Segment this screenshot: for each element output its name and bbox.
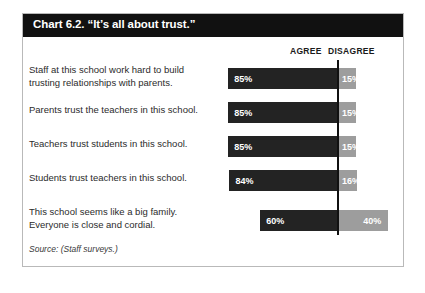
agree-disagree-divider [337, 60, 339, 235]
bar-segment-disagree: 15% [337, 136, 356, 157]
row-label: Teachers trust students in this school. [29, 138, 209, 151]
bar-value-agree: 84% [229, 176, 253, 186]
chart-title: Chart 6.2. “It’s all about trust.” [33, 18, 195, 30]
chart-title-band: Chart 6.2. “It’s all about trust.” [23, 14, 403, 37]
bar-segment-agree: 60% [260, 210, 337, 231]
chart-frame: Chart 6.2. “It’s all about trust.” AGREE… [22, 13, 404, 267]
bar-segment-disagree: 16% [337, 170, 357, 191]
bar-segment-agree: 85% [228, 102, 337, 123]
column-header-row: AGREE DISAGREE [23, 46, 403, 60]
bar-value-agree: 85% [228, 74, 252, 84]
bar-segment-agree: 85% [228, 68, 337, 89]
bar-segment-disagree: 40% [337, 210, 388, 231]
bar-value-agree: 60% [260, 216, 284, 226]
bar-value-disagree: 15% [337, 142, 360, 152]
bar-value-disagree: 16% [337, 176, 360, 186]
bar-value-disagree: 15% [337, 74, 360, 84]
column-header-disagree: DISAGREE [328, 46, 375, 56]
bar-segment-agree: 85% [228, 136, 337, 157]
plot-area: Staff at this school work hard to buildt… [23, 60, 403, 240]
column-header-agree: AGREE [290, 46, 322, 56]
row-label: Staff at this school work hard to buildt… [29, 64, 209, 89]
bar-value-agree: 85% [228, 108, 252, 118]
bar-segment-disagree: 15% [337, 68, 356, 89]
source-note: Source: (Staff surveys.) [29, 244, 118, 254]
row-label: Parents trust the teachers in this schoo… [29, 104, 209, 117]
row-label: This school seems like a big family.Ever… [29, 206, 209, 231]
stacked-bar: 60%40% [260, 210, 388, 231]
bar-value-disagree: 40% [363, 216, 388, 226]
bar-segment-disagree: 15% [337, 102, 356, 123]
row-label: Students trust teachers in this school. [29, 172, 209, 185]
bar-value-agree: 85% [228, 142, 252, 152]
bar-segment-agree: 84% [229, 170, 337, 191]
bar-value-disagree: 15% [337, 108, 360, 118]
